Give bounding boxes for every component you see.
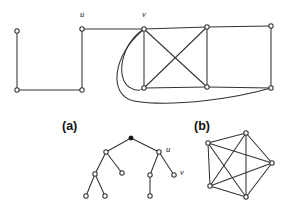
- top-edge-n9-n10: [207, 87, 271, 88]
- a-edge-r1-r3: [159, 152, 174, 175]
- panel-a: (a) uv: [62, 119, 184, 198]
- panel-a-vertices: [84, 136, 176, 198]
- top-graph-vertex-labels: uv: [80, 9, 146, 19]
- top-vertex-n10: [269, 86, 273, 90]
- top-edge-n6-n7: [207, 26, 271, 27]
- panel-a-vertex-labels: uv: [166, 144, 184, 177]
- top-graph-edges: [17, 26, 271, 90]
- b-vertex-b2: [206, 141, 210, 145]
- a-vertex-l2: [93, 172, 97, 176]
- a-vertex-l5: [103, 194, 107, 198]
- top-vertex-n3: [80, 88, 84, 92]
- top-vertex-n9: [205, 85, 209, 89]
- b-edge-b2-b3: [208, 143, 272, 163]
- a-vertex-root: [129, 136, 133, 140]
- a-edge-l2-l4: [86, 174, 95, 196]
- top-edge-v-n6: [144, 27, 207, 29]
- b-vertex-b4: [208, 184, 212, 188]
- b-vertex-b3: [270, 161, 274, 165]
- a-vertex-r3: [172, 173, 176, 177]
- a-label-v: v: [180, 167, 184, 177]
- b-edge-b2-b5: [208, 143, 246, 197]
- a-vertex-l1: [104, 150, 108, 154]
- a-vertex-r2: [148, 173, 152, 177]
- top-vertex-n8: [142, 86, 146, 90]
- top-vertex-n1: [15, 29, 19, 33]
- a-edge-l1-l2: [95, 152, 106, 174]
- top-vertex-v: [142, 27, 146, 31]
- a-vertex-l4: [84, 194, 88, 198]
- a-vertex-l3: [120, 171, 124, 175]
- a-vertex-r1: [157, 150, 161, 154]
- panel-b-edges: [208, 133, 272, 197]
- a-edge-l1-l3: [106, 152, 122, 173]
- graph-figure: uv (a) uv (b): [0, 0, 286, 209]
- panel-b: (b): [194, 119, 274, 199]
- b-vertex-b1: [244, 131, 248, 135]
- top-label-u: u: [80, 9, 84, 19]
- a-edge-root-l1: [106, 138, 131, 152]
- a-edge-root-r1: [131, 138, 159, 152]
- a-label-u: u: [166, 144, 170, 154]
- top-vertex-n7: [269, 24, 273, 28]
- b-vertex-b5: [244, 195, 248, 199]
- curved-edge-v-to-n8: [122, 29, 144, 90]
- a-vertex-r4: [148, 194, 152, 198]
- panel-a-label: (a): [62, 119, 77, 133]
- a-edge-r1-r2: [150, 152, 159, 175]
- panel-a-edges: [86, 138, 174, 196]
- top-vertex-n6: [205, 25, 209, 29]
- b-edge-b2-b4: [208, 143, 210, 186]
- panel-b-label: (b): [194, 119, 210, 133]
- b-edge-b4-b5: [210, 186, 246, 197]
- top-vertex-u: [80, 27, 84, 31]
- top-graph: uv: [15, 9, 273, 103]
- top-vertex-n2: [15, 88, 19, 92]
- top-edge-n8-n9: [144, 87, 207, 88]
- top-label-v: v: [142, 9, 146, 19]
- a-edge-l2-l5: [95, 174, 105, 196]
